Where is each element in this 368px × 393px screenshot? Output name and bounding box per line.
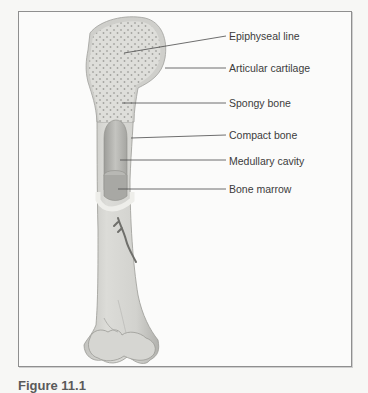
figure-caption: Figure 11.1 [18, 378, 86, 393]
label-spongy-bone: Spongy bone [229, 97, 291, 109]
label-bone-marrow: Bone marrow [229, 183, 291, 195]
proximal-epiphysis [86, 17, 166, 122]
label-compact-bone: Compact bone [229, 129, 297, 141]
label-medullary-cavity: Medullary cavity [229, 155, 304, 167]
label-epiphyseal-line: Epiphyseal line [229, 30, 300, 42]
label-articular-cartilage: Articular cartilage [229, 62, 310, 74]
